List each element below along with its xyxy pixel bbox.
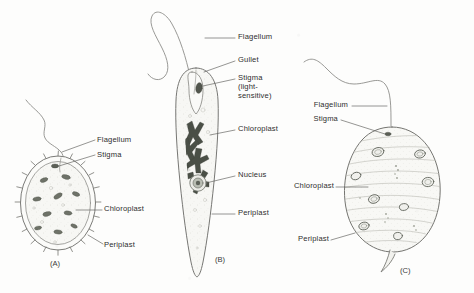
flagellate-cell-diagram — [0, 0, 474, 293]
label-a-flagellum: Flagellum — [97, 136, 131, 145]
caption-a: (A) — [50, 259, 60, 268]
label-b-stigma-note-2: sensitive) — [238, 92, 272, 101]
leader-c-stigma — [341, 120, 385, 134]
panel-a-stigma — [51, 164, 58, 168]
leader-c-periplast — [331, 233, 355, 240]
label-c-stigma: Stigma — [276, 115, 338, 124]
leader-a-periplast — [88, 235, 103, 244]
panel-c-tail — [381, 250, 395, 272]
label-a-periplast: Periplast — [104, 241, 135, 250]
panel-b-flagellum-icon — [148, 12, 190, 80]
leader-a-flagellum — [62, 140, 95, 152]
panel-c-stigma — [385, 132, 391, 136]
caption-b: (B) — [215, 255, 225, 264]
panel-c-periplast — [344, 127, 440, 252]
leader-b-gullet — [204, 61, 235, 72]
label-b-nucleus: Nucleus — [238, 171, 267, 180]
label-a-chloroplast: Chloroplast — [104, 205, 144, 214]
label-a-stigma: Stigma — [97, 151, 122, 160]
label-b-chloroplast: Chloroplast — [238, 125, 278, 134]
label-c-flagellum: Flagellum — [276, 101, 348, 110]
panel-b-nucleolus — [196, 181, 200, 185]
label-b-periplast: Periplast — [238, 209, 269, 218]
panel-a-cell — [15, 100, 101, 255]
caption-c: (C) — [400, 266, 411, 275]
panel-b-cell — [148, 12, 218, 277]
label-c-periplast: Periplast — [268, 235, 329, 244]
label-b-flagellum: Flagellum — [238, 33, 272, 42]
label-b-gullet: Gullet — [238, 56, 259, 65]
label-c-chloroplast: Chloroplast — [268, 182, 334, 191]
